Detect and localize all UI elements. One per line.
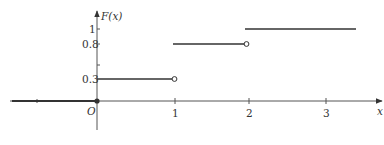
x-axis-label: x (377, 105, 383, 117)
cdf-step-chart: 1 2 3 0.3 0.8 1 F(x) x O (0, 0, 384, 145)
y-tick-label-0.8: 0.8 (82, 38, 99, 50)
y-axis-label: F(x) (100, 10, 122, 22)
closed-point-origin (94, 98, 99, 103)
x-tick-label-1: 1 (172, 107, 179, 119)
cdf-segments (12, 29, 356, 101)
y-tick-label-1: 1 (89, 23, 96, 35)
x-tick-label-3: 3 (323, 107, 330, 119)
x-tick-label-2: 2 (246, 107, 253, 119)
origin-label: O (87, 105, 96, 117)
open-point-2-0.8 (244, 42, 249, 47)
y-tick-label-0.3: 0.3 (82, 73, 99, 85)
open-point-1-0.3 (172, 77, 177, 82)
